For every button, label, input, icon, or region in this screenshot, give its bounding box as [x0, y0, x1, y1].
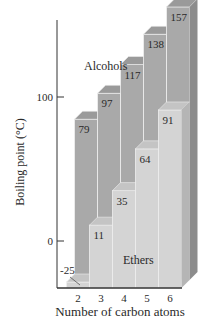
y-ticks: 0100 [37, 91, 65, 247]
ether-bar-6: 91 [159, 102, 190, 288]
value-label: -25 [60, 264, 75, 276]
x-tick-label: 3 [98, 292, 104, 304]
value-label: 35 [117, 195, 129, 207]
y-tick-label: 100 [37, 91, 54, 103]
x-tick-label: 5 [144, 292, 150, 304]
y-tick-label: 0 [48, 235, 54, 247]
x-tick-label: 6 [167, 292, 173, 304]
x-axis-title: Number of carbon atoms [55, 304, 185, 319]
x-tick-labels: 23456 [75, 292, 173, 304]
value-label: 11 [94, 229, 105, 241]
x-tick-label: 4 [121, 292, 127, 304]
alcohols-label: Alcohols [84, 59, 128, 73]
y-axis-title: Boiling point (°C) [13, 118, 27, 205]
value-label: 97 [102, 97, 114, 109]
value-label: 91 [163, 114, 174, 126]
value-label: 157 [171, 11, 188, 23]
value-label: 64 [140, 153, 152, 165]
x-tick-label: 2 [75, 292, 81, 304]
value-label: 138 [148, 38, 165, 50]
value-label: 79 [79, 123, 91, 135]
boiling-point-chart: 7997117138157 -2511356491 0100 23456 Num… [0, 0, 210, 326]
ethers-label: Ethers [123, 253, 154, 267]
